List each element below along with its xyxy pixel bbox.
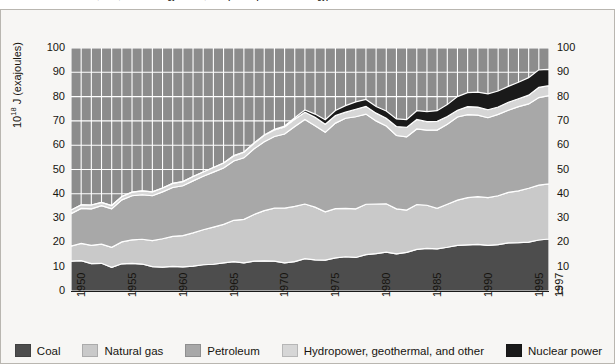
y-axis-title: 1018 J (exajoules) (9, 42, 23, 128)
y-tick-label: 0 (35, 285, 65, 295)
legend-item-label: Hydropower, geothermal, and other (304, 345, 484, 357)
x-tick-label: 1997 (554, 273, 564, 297)
legend-swatch-petroleum (185, 344, 201, 357)
x-tick-label: 1985 (432, 273, 442, 297)
x-tick-label: 1950 (76, 273, 86, 297)
y-tick-label: 60 (35, 139, 65, 149)
y-tick-label-right: 70 (557, 115, 587, 125)
y-tick-label-right: 50 (557, 164, 587, 174)
x-tick-label: 1960 (178, 273, 188, 297)
y-tick-label-right: 30 (557, 212, 587, 222)
y-tick-label: 30 (35, 212, 65, 222)
chart-legend: CoalNatural gasPetroleumHydropower, geot… (1, 344, 615, 357)
legend-item-label: Petroleum (207, 345, 259, 357)
y-tick-label-right: 80 (557, 91, 587, 101)
legend-swatch-coal (15, 344, 31, 357)
x-tick-label: 1970 (279, 273, 289, 297)
x-tick-label: 1995 (534, 273, 544, 297)
y-tick-label: 70 (35, 115, 65, 125)
legend-item[interactable]: Hydropower, geothermal, and other (282, 344, 484, 357)
y-axis-title-prefix: 10 (11, 116, 23, 128)
legend-item[interactable]: Nuclear power (506, 344, 602, 357)
x-tick-label: 1975 (330, 273, 340, 297)
source-caption: Information Administration, 1997; Annual… (0, 0, 615, 9)
legend-item-label: Coal (37, 345, 61, 357)
x-tick-label: 1980 (381, 273, 391, 297)
legend-swatch-nuclear (506, 344, 522, 357)
y-tick-label-right: 10 (557, 261, 587, 271)
y-tick-label: 20 (35, 236, 65, 246)
legend-item[interactable]: Coal (15, 344, 61, 357)
legend-item-label: Natural gas (104, 345, 163, 357)
y-tick-label-right: 60 (557, 139, 587, 149)
figure-root: Information Administration, 1997; Annual… (0, 0, 615, 364)
legend-swatch-hydropower (282, 344, 298, 357)
legend-item[interactable]: Natural gas (82, 344, 163, 357)
legend-item[interactable]: Petroleum (185, 344, 259, 357)
stacked-area-chart (71, 48, 549, 291)
x-tick-label: 1965 (229, 273, 239, 297)
legend-swatch-natural-gas (82, 344, 98, 357)
y-tick-label: 100 (35, 42, 65, 52)
y-tick-label: 10 (35, 261, 65, 271)
y-tick-label-right: 20 (557, 236, 587, 246)
y-axis-title-exponent: 18 (9, 107, 18, 115)
x-axis-line (71, 291, 549, 292)
plot-area (71, 48, 549, 291)
y-tick-label: 50 (35, 164, 65, 174)
y-tick-label-right: 90 (557, 66, 587, 76)
y-tick-label-right: 40 (557, 188, 587, 198)
y-axis-title-suffix: J (exajoules) (11, 42, 23, 107)
x-tick-label: 1990 (483, 273, 493, 297)
source-caption-text: Information Administration, 1997; Annual… (0, 0, 329, 1)
y-tick-label: 40 (35, 188, 65, 198)
y-tick-label: 80 (35, 91, 65, 101)
y-tick-label-right: 100 (557, 42, 587, 52)
legend-item-label: Nuclear power (528, 345, 602, 357)
y-tick-label: 90 (35, 66, 65, 76)
x-tick-label: 1955 (127, 273, 137, 297)
chart-figure: 1018 J (exajoules) 100908070605040302010… (0, 9, 615, 364)
